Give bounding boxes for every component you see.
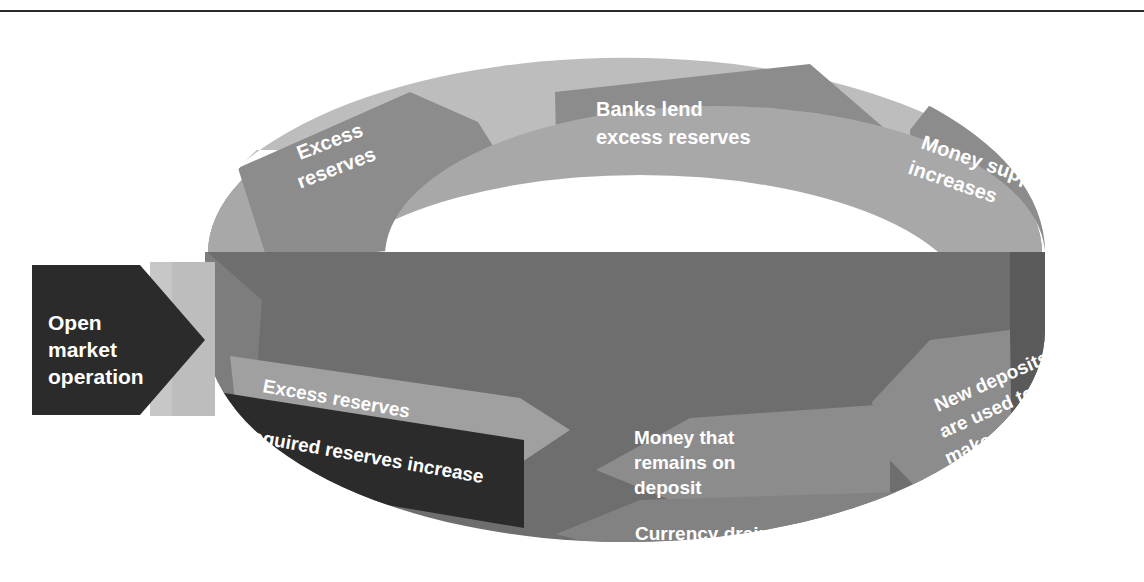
money-multiplier-ring-diagram: Excess reserves Banks lend excess reserv…	[0, 0, 1144, 582]
label-open-market-line3: operation	[48, 365, 144, 388]
diagram-page: Excess reserves Banks lend excess reserv…	[0, 0, 1144, 582]
label-money-remains-line3: deposit	[634, 477, 702, 498]
label-money-remains-line2: remains on	[634, 452, 735, 473]
label-banks-lend-line2: excess reserves	[596, 126, 751, 148]
label-open-market-line2: market	[48, 338, 117, 361]
label-money-remains-line1: Money that	[634, 427, 735, 448]
label-open-market-line1: Open	[48, 311, 102, 334]
label-banks-lend-line1: Banks lend	[596, 98, 703, 120]
label-currency-drain: Currency drain	[635, 523, 770, 544]
